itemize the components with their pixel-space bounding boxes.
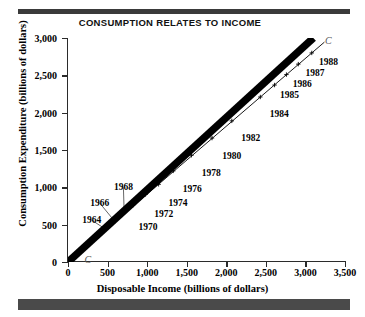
x-tick-label: 3,000 (294, 267, 317, 278)
x-tick-label: 500 (100, 267, 115, 278)
curve-label-c: C (84, 253, 91, 264)
year-label: 1972 (154, 209, 173, 219)
y-tick (62, 75, 67, 76)
y-tick (62, 225, 67, 226)
y-tick-label: 500 (42, 219, 57, 230)
y-tick (62, 187, 67, 188)
x-tick-label: 1,000 (136, 267, 159, 278)
x-tick-label: 2,000 (215, 267, 238, 278)
year-label: 1968 (114, 182, 133, 192)
year-label: 1987 (305, 68, 324, 78)
y-tick (62, 38, 67, 39)
curve-label-c: C (325, 34, 332, 45)
year-label: 1980 (222, 151, 241, 161)
y-tick (62, 262, 67, 263)
x-tick-label: 2,500 (255, 267, 278, 278)
y-tick (62, 150, 67, 151)
consumption-function-line (90, 42, 324, 243)
y-tick-label: 1,000 (35, 182, 58, 193)
bottom-rule-bar (18, 299, 350, 310)
y-tick-label: 0 (52, 257, 57, 268)
x-tick-label: 3,500 (334, 267, 357, 278)
year-label: 1976 (183, 184, 202, 194)
chart-title: CONSUMPTION RELATES TO INCOME (0, 17, 340, 28)
year-label: 1974 (169, 198, 188, 208)
year-label: 1978 (202, 168, 221, 178)
forty-five-degree-band (68, 38, 313, 262)
x-tick-label: 1,500 (175, 267, 198, 278)
x-axis-title: Disposable Income (billions of dollars) (0, 283, 365, 294)
year-label: 1964 (82, 215, 101, 225)
y-tick-label: 3,000 (35, 33, 58, 44)
x-tick-label: 0 (66, 267, 71, 278)
y-tick-label: 2,500 (35, 70, 58, 81)
y-tick (62, 113, 67, 114)
year-label: 1970 (138, 222, 157, 232)
year-label: 1988 (319, 57, 338, 67)
y-axis-title: Consumption Expenditure (billions of dol… (17, 12, 28, 236)
y-tick-label: 1,500 (35, 145, 58, 156)
y-tick-label: 2,000 (35, 107, 58, 118)
plot-area: 1964196619681970197219741976197819801982… (68, 38, 345, 262)
year-label: 1984 (270, 109, 289, 119)
top-rule-bar (18, 9, 350, 14)
year-label: 1985 (280, 90, 299, 100)
year-label: 1986 (293, 79, 312, 89)
year-label: 1966 (90, 198, 109, 208)
year-label: 1982 (241, 133, 260, 143)
consumption-function-graphic (68, 38, 345, 262)
